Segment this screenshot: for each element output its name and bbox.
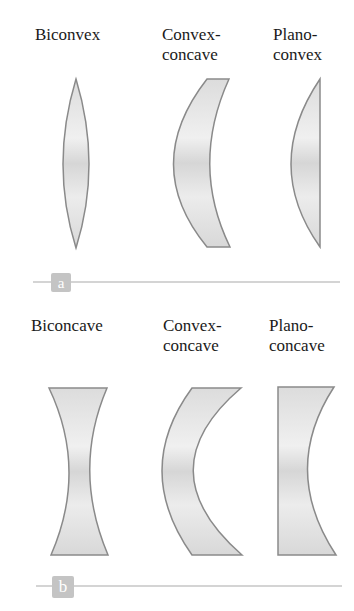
panel-b-tag: b xyxy=(52,576,74,598)
plano-convex-lens-shape xyxy=(291,79,320,247)
panel-a-divider xyxy=(33,281,340,283)
convex-concave-lens-shape-a xyxy=(174,79,231,247)
biconvex-lens-shape xyxy=(63,79,89,248)
lens-diagram xyxy=(0,0,354,611)
biconcave-lens-shape xyxy=(49,388,108,555)
convex-concave-lens-shape-b xyxy=(162,388,242,555)
plano-concave-lens-shape xyxy=(278,387,336,555)
panel-a-tag: a xyxy=(51,273,71,292)
panel-b-divider xyxy=(36,585,342,587)
